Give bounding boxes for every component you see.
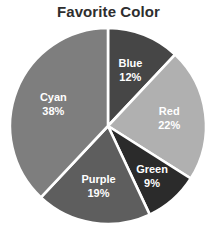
pie-slice-label-green: Green bbox=[136, 163, 168, 175]
pie-chart-plot-area: Blue12%Red22%Green9%Purple19%Cyan38% bbox=[0, 0, 217, 246]
pie-slice-label-red: Red bbox=[159, 105, 180, 117]
pie-slice-value-purple: 19% bbox=[87, 187, 109, 199]
pie-slice-label-blue: Blue bbox=[118, 57, 142, 69]
pie-slice-value-green: 9% bbox=[144, 177, 160, 189]
pie-slice-value-red: 22% bbox=[158, 119, 180, 131]
pie-slice-value-blue: 12% bbox=[119, 71, 141, 83]
pie-chart-figure: Favorite Color Blue12%Red22%Green9%Purpl… bbox=[0, 0, 217, 246]
pie-slice-label-purple: Purple bbox=[81, 173, 115, 185]
pie-chart-svg: Blue12%Red22%Green9%Purple19%Cyan38% bbox=[0, 0, 217, 246]
figure-bottom-edge bbox=[10, 239, 206, 242]
pie-slice-label-cyan: Cyan bbox=[40, 91, 67, 103]
pie-slice-value-cyan: 38% bbox=[42, 105, 64, 117]
